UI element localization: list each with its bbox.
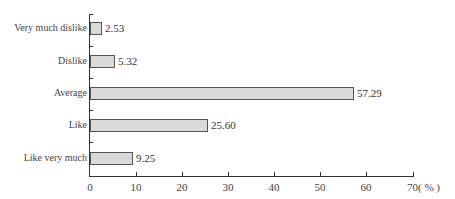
bar <box>90 87 354 100</box>
x-tick <box>366 172 367 176</box>
x-tick <box>228 172 229 176</box>
category-label: Dislike <box>58 55 87 66</box>
x-tick-label: 30 <box>223 181 234 193</box>
value-label: 57.29 <box>357 87 382 99</box>
category-label: Like very much <box>24 152 87 163</box>
x-tick-label: 20 <box>177 181 188 193</box>
x-tick-label: 70( % ) <box>407 181 440 193</box>
bar <box>90 55 115 68</box>
category-label: Like <box>69 119 87 130</box>
y-tick <box>89 142 93 143</box>
y-tick <box>89 78 93 79</box>
category-label: Very much dislike <box>14 22 87 33</box>
y-tick <box>89 46 93 47</box>
y-tick <box>89 110 93 111</box>
category-label: Average <box>54 87 87 98</box>
bar <box>90 119 208 132</box>
x-tick-label: 50 <box>315 181 326 193</box>
y-tick <box>89 14 93 15</box>
value-label: 9.25 <box>136 152 155 164</box>
bar <box>90 22 102 35</box>
x-tick-label: 10 <box>131 181 142 193</box>
value-label: 25.60 <box>211 119 236 131</box>
x-axis <box>89 176 414 177</box>
x-tick <box>274 172 275 176</box>
x-tick <box>182 172 183 176</box>
x-tick-label: 40 <box>269 181 280 193</box>
x-tick-label: 0 <box>87 181 93 193</box>
value-label: 5.32 <box>118 55 137 67</box>
value-label: 2.53 <box>105 22 124 34</box>
x-tick-label: 60 <box>361 181 372 193</box>
preference-bar-chart: Very much dislike 2.53 Dislike 5.32 Aver… <box>0 0 455 199</box>
bar <box>90 152 133 165</box>
x-tick <box>320 172 321 176</box>
x-tick <box>136 172 137 176</box>
x-tick <box>413 172 414 176</box>
